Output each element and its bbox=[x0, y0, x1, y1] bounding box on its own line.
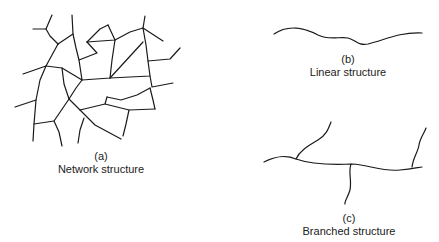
panel-a-letter: (a) bbox=[58, 150, 144, 163]
linear-structure-drawing bbox=[274, 28, 422, 44]
panel-b-title: Linear structure bbox=[310, 66, 386, 79]
panel-a-title: Network structure bbox=[58, 163, 144, 176]
panel-a-caption: (a) Network structure bbox=[58, 150, 144, 176]
panel-b-caption: (b) Linear structure bbox=[310, 53, 386, 79]
panel-c-title: Branched structure bbox=[303, 225, 396, 238]
figure-canvas bbox=[0, 0, 439, 242]
network-structure-drawing bbox=[15, 15, 180, 146]
panel-b-letter: (b) bbox=[310, 53, 386, 66]
branched-structure-drawing bbox=[264, 122, 426, 204]
panel-c-letter: (c) bbox=[303, 212, 396, 225]
panel-c-caption: (c) Branched structure bbox=[303, 212, 396, 238]
